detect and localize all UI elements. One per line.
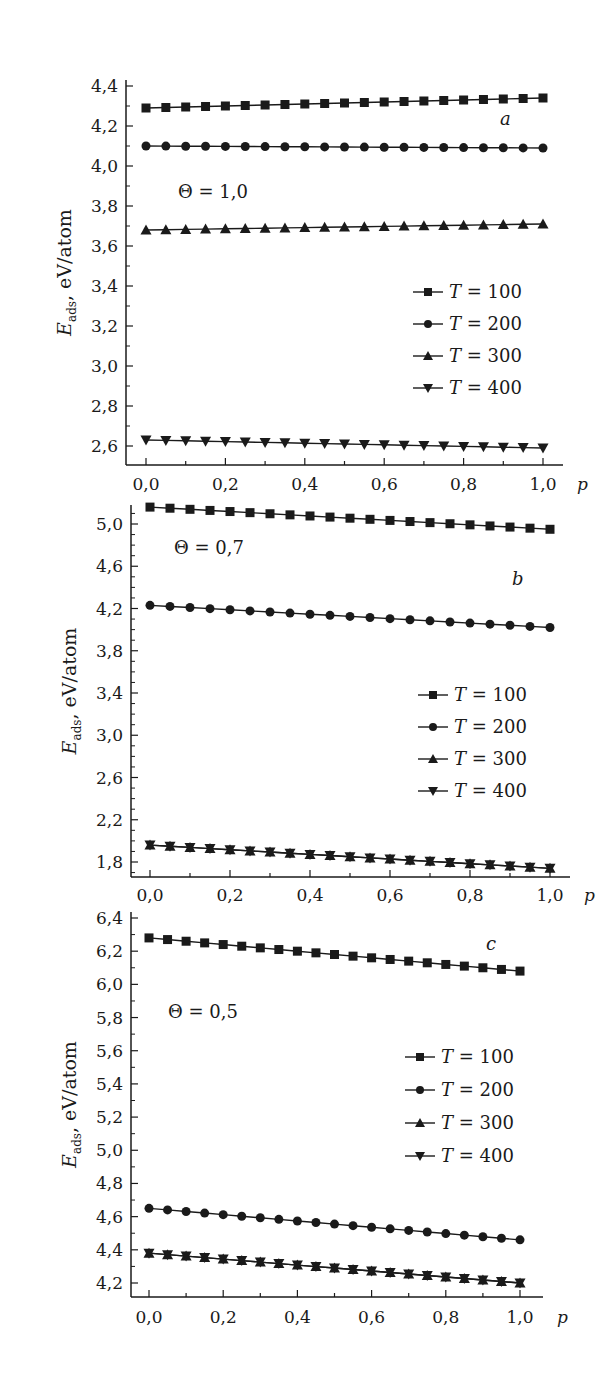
square-marker-icon	[419, 97, 428, 106]
legend-entry: T = 100	[449, 281, 522, 302]
circle-marker-icon	[237, 1212, 246, 1221]
circle-marker-icon	[221, 142, 230, 151]
circle-marker-icon	[163, 1205, 172, 1214]
panel-letter: b	[512, 568, 524, 589]
y-tick-label: 4,6	[96, 1207, 123, 1227]
circle-marker-icon	[326, 611, 335, 620]
circle-marker-icon	[459, 143, 468, 152]
panel-a: 2,62,83,03,23,43,63,84,04,24,40,00,20,40…	[53, 76, 588, 494]
y-tick-label: 1,8	[96, 852, 123, 872]
y-tick-label: 3,8	[96, 641, 123, 661]
circle-marker-icon	[441, 1229, 450, 1238]
panel-letter: a	[500, 108, 511, 129]
circle-marker-icon	[293, 1216, 302, 1225]
square-marker-icon	[416, 1053, 424, 1061]
circle-marker-icon	[446, 617, 455, 626]
y-tick-label: 4,0	[91, 156, 118, 176]
x-tick-label: 0,4	[284, 1307, 311, 1327]
circle-marker-icon	[499, 143, 508, 152]
circle-marker-icon	[266, 607, 275, 616]
series-t200	[146, 601, 555, 632]
circle-marker-icon	[280, 142, 289, 151]
square-marker-icon	[286, 510, 295, 519]
square-marker-icon	[367, 953, 376, 962]
square-marker-icon	[206, 506, 215, 515]
circle-marker-icon	[466, 619, 475, 628]
square-marker-icon	[400, 97, 409, 106]
y-tick-label: 6,2	[96, 941, 123, 961]
circle-marker-icon	[346, 612, 355, 621]
square-marker-icon	[161, 103, 170, 112]
x-tick-label: 0,8	[450, 474, 477, 494]
square-marker-icon	[404, 957, 413, 966]
square-marker-icon	[142, 104, 151, 113]
y-tick-label: 2,6	[96, 768, 123, 788]
circle-marker-icon	[306, 610, 315, 619]
square-marker-icon	[200, 938, 209, 947]
square-marker-icon	[163, 935, 172, 944]
legend-entry: T = 400	[454, 780, 527, 801]
x-tick-label: 0,2	[210, 1307, 237, 1327]
circle-marker-icon	[201, 142, 210, 151]
y-tick-label: 5,4	[96, 1074, 123, 1094]
square-marker-icon	[499, 95, 508, 104]
circle-marker-icon	[241, 142, 250, 151]
coverage-annotation: Θ = 0,7	[174, 537, 244, 558]
circle-marker-icon	[166, 602, 175, 611]
square-marker-icon	[424, 288, 432, 296]
panel-c: 4,24,44,64,85,05,25,45,65,86,06,26,40,00…	[58, 908, 568, 1327]
y-tick-label: 4,4	[96, 1240, 123, 1260]
legend-entry: T = 200	[449, 313, 522, 334]
square-marker-icon	[539, 94, 548, 103]
square-marker-icon	[466, 520, 475, 529]
square-marker-icon	[201, 102, 210, 111]
square-marker-icon	[519, 94, 528, 103]
square-marker-icon	[426, 518, 435, 527]
square-marker-icon	[186, 505, 195, 514]
y-tick-label: 4,2	[96, 1273, 123, 1293]
circle-marker-icon	[145, 1204, 154, 1213]
circle-marker-icon	[256, 1213, 265, 1222]
square-marker-icon	[311, 948, 320, 957]
square-marker-icon	[526, 524, 535, 533]
y-tick-label: 5,0	[96, 514, 123, 534]
circle-marker-icon	[439, 143, 448, 152]
circle-marker-icon	[404, 1226, 413, 1235]
y-tick-label: 4,6	[96, 556, 123, 576]
legend-entry: T = 300	[449, 345, 522, 366]
square-marker-icon	[330, 950, 339, 959]
circle-marker-icon	[380, 143, 389, 152]
circle-marker-icon	[206, 604, 215, 613]
y-tick-label: 5,8	[96, 1008, 123, 1028]
x-tick-label: 0,4	[291, 474, 318, 494]
circle-marker-icon	[349, 1221, 358, 1230]
series-t200	[145, 1204, 525, 1245]
y-axis-label: Eads, eV/atom	[58, 1041, 84, 1169]
y-tick-label: 2,8	[91, 396, 118, 416]
x-tick-label: 0,6	[358, 1307, 385, 1327]
legend: T = 100T = 200T = 300T = 400	[418, 684, 527, 801]
x-tick-label: 0,6	[376, 885, 403, 905]
circle-marker-icon	[367, 1223, 376, 1232]
circle-marker-icon	[426, 616, 435, 625]
square-marker-icon	[406, 517, 415, 526]
series-t400	[141, 436, 549, 454]
circle-marker-icon	[360, 143, 369, 152]
circle-marker-icon	[478, 1232, 487, 1241]
square-marker-icon	[221, 102, 230, 111]
square-marker-icon	[478, 963, 487, 972]
x-tick-label: 0,8	[456, 885, 483, 905]
y-tick-label: 6,0	[96, 974, 123, 994]
circle-marker-icon	[497, 1234, 506, 1243]
figure-canvas: 2,62,83,03,23,43,63,84,04,24,40,00,20,40…	[0, 0, 613, 1390]
circle-marker-icon	[479, 143, 488, 152]
circle-marker-icon	[286, 609, 295, 618]
square-marker-icon	[256, 943, 265, 952]
y-axis-label: Eads, eV/atom	[53, 209, 79, 337]
square-marker-icon	[241, 101, 250, 110]
legend-entry: T = 200	[441, 1079, 514, 1100]
square-marker-icon	[380, 98, 389, 107]
y-tick-label: 3,6	[91, 236, 118, 256]
y-tick-label: 3,0	[91, 356, 118, 376]
x-tick-label: 1,0	[506, 1307, 533, 1327]
